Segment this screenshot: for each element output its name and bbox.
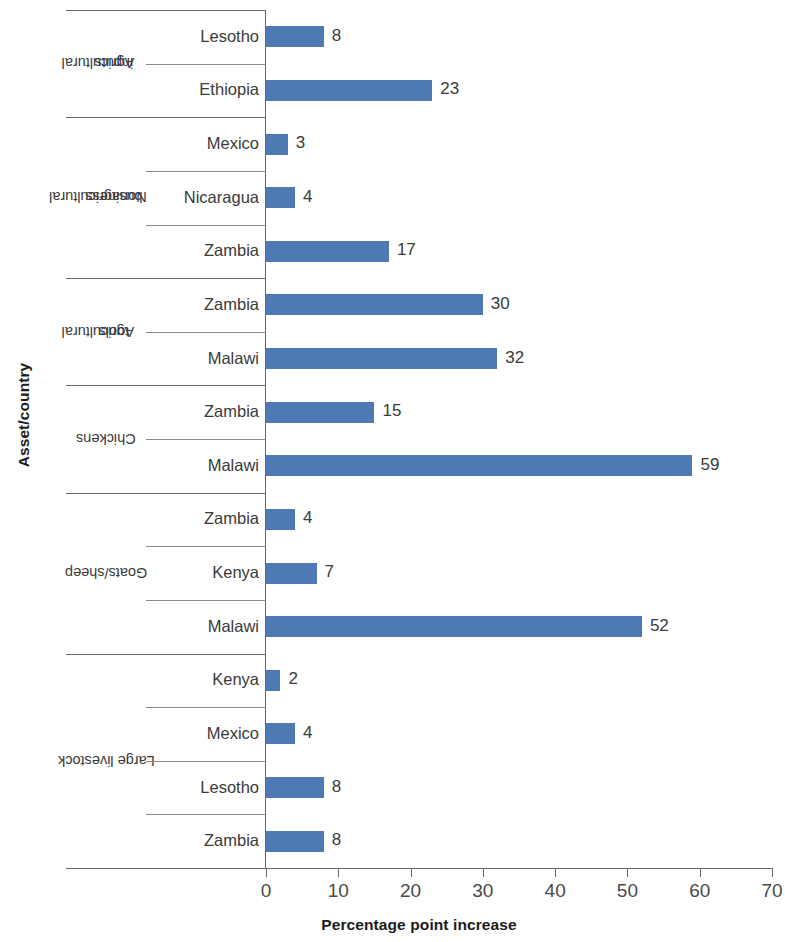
bar	[266, 723, 295, 744]
country-label: Ethiopia	[146, 80, 259, 99]
country-label: Malawi	[146, 456, 259, 475]
row-separator	[146, 225, 266, 226]
country-label: Zambia	[146, 402, 259, 421]
x-axis-tick-label: 30	[453, 880, 513, 902]
bar-value-label: 4	[303, 723, 312, 743]
chart-row: Mexico	[66, 117, 772, 171]
x-axis-tick	[483, 868, 484, 877]
country-label: Zambia	[146, 831, 259, 850]
bar-value-label: 3	[296, 133, 305, 153]
x-axis-tick-label: 20	[381, 880, 441, 902]
country-label: Mexico	[146, 724, 259, 743]
row-separator	[146, 64, 266, 65]
chart-row: Lesotho	[66, 761, 772, 815]
plot-area: AgriculturalinputsLesothoEthiopiaNonagri…	[66, 10, 772, 868]
row-separator	[146, 332, 266, 333]
chart-row: Zambia	[66, 385, 772, 439]
country-label: Nicaragua	[146, 188, 259, 207]
bar	[266, 134, 288, 155]
row-separator	[146, 439, 266, 440]
bar	[266, 402, 374, 423]
chart-row: Zambia	[66, 814, 772, 868]
bar	[266, 777, 324, 798]
chart-row: Zambia	[66, 493, 772, 547]
x-axis-tick-label: 10	[308, 880, 368, 902]
bar	[266, 187, 295, 208]
x-axis-tick	[772, 868, 773, 877]
country-label: Mexico	[146, 134, 259, 153]
bar	[266, 80, 432, 101]
bar-value-label: 8	[332, 777, 341, 797]
chart-row: Kenya	[66, 654, 772, 708]
row-separator	[146, 171, 266, 172]
row-separator	[146, 600, 266, 601]
x-axis-tick	[555, 868, 556, 877]
row-separator	[146, 814, 266, 815]
bar-value-label: 15	[382, 401, 401, 421]
bar-value-label: 30	[491, 294, 510, 314]
chart-row: Mexico	[66, 707, 772, 761]
bar	[266, 616, 642, 637]
bar-value-label: 8	[332, 830, 341, 850]
x-axis-tick-label: 70	[742, 880, 785, 902]
bar	[266, 563, 317, 584]
country-label: Zambia	[146, 509, 259, 528]
asset-group: Large livestockKenyaMexicoLesothoZambia	[66, 654, 772, 869]
x-axis-tick	[411, 868, 412, 877]
country-label: Malawi	[146, 349, 259, 368]
row-separator	[146, 546, 266, 547]
x-axis-title: Percentage point increase	[66, 916, 772, 934]
country-label: Zambia	[146, 295, 259, 314]
country-label: Lesotho	[146, 778, 259, 797]
country-label: Kenya	[146, 563, 259, 582]
row-separator	[146, 761, 266, 762]
chart-row: Kenya	[66, 546, 772, 600]
bar	[266, 26, 324, 47]
country-label: Malawi	[146, 617, 259, 636]
x-axis-tick	[627, 868, 628, 877]
x-axis-tick-label: 40	[525, 880, 585, 902]
country-label: Lesotho	[146, 27, 259, 46]
y-axis-title: Asset/country	[15, 325, 33, 505]
bar	[266, 670, 280, 691]
bar-value-label: 2	[288, 669, 297, 689]
bar-value-label: 32	[505, 348, 524, 368]
x-axis-tick	[700, 868, 701, 877]
bar-value-label: 8	[332, 26, 341, 46]
bar	[266, 831, 324, 852]
bar-value-label: 4	[303, 508, 312, 528]
chart-row: Lesotho	[66, 10, 772, 64]
asset-group: AgriculturalinputsLesothoEthiopia	[66, 10, 772, 117]
x-axis-tick	[338, 868, 339, 877]
x-axis-tick	[266, 868, 267, 877]
x-axis-line	[66, 868, 772, 869]
bar	[266, 348, 497, 369]
bar-value-label: 23	[440, 79, 459, 99]
bar-value-label: 7	[325, 562, 334, 582]
chart-row: Zambia	[66, 225, 772, 279]
x-axis-tick-label: 60	[670, 880, 730, 902]
bar-chart: Asset/country AgriculturalinputsLesothoE…	[0, 0, 785, 942]
x-axis-tick-label: 50	[597, 880, 657, 902]
asset-group: ChickensZambiaMalawi	[66, 385, 772, 492]
bar	[266, 455, 692, 476]
bar-value-label: 17	[397, 240, 416, 260]
x-axis-tick-label: 0	[236, 880, 296, 902]
bar-value-label: 4	[303, 187, 312, 207]
country-label: Zambia	[146, 241, 259, 260]
bar	[266, 241, 389, 262]
bar-value-label: 59	[700, 455, 719, 475]
bar	[266, 509, 295, 530]
bar-value-label: 52	[650, 616, 669, 636]
bar	[266, 294, 483, 315]
asset-group: NonagriculturalbusinessMexicoNicaraguaZa…	[66, 117, 772, 278]
row-separator	[146, 707, 266, 708]
chart-row: Nicaragua	[66, 171, 772, 225]
country-label: Kenya	[146, 670, 259, 689]
